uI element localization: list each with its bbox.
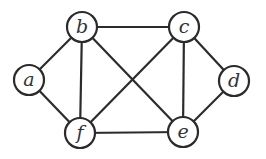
node-d: d: [219, 66, 249, 96]
edges-group: [29, 27, 234, 133]
node-label: d: [228, 69, 240, 91]
node-f: f: [65, 118, 95, 148]
node-b: b: [67, 12, 97, 42]
node-e: e: [168, 117, 198, 147]
node-a: a: [14, 65, 44, 95]
node-label: a: [23, 68, 34, 90]
graph-diagram: abcdef: [0, 0, 266, 159]
node-label: c: [179, 15, 190, 37]
node-c: c: [169, 12, 199, 42]
node-label: b: [76, 15, 88, 37]
node-label: e: [177, 120, 188, 142]
